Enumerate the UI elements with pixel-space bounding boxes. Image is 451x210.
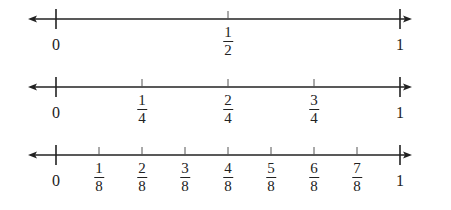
denominator: 4 bbox=[224, 110, 232, 126]
tick-label: 0 bbox=[52, 37, 60, 53]
numerator: 1 bbox=[223, 25, 233, 42]
denominator: 8 bbox=[224, 178, 232, 194]
denominator: 8 bbox=[267, 178, 275, 194]
numerator: 6 bbox=[309, 161, 319, 178]
tick-label: 18 bbox=[94, 161, 104, 194]
fraction: 58 bbox=[266, 161, 276, 194]
tick-label: 68 bbox=[309, 161, 319, 194]
tick-label: 12 bbox=[223, 25, 233, 58]
numerator: 4 bbox=[223, 161, 233, 178]
denominator: 2 bbox=[224, 42, 232, 58]
tick-label: 14 bbox=[137, 93, 147, 126]
numerator: 2 bbox=[137, 161, 147, 178]
denominator: 8 bbox=[353, 178, 361, 194]
tick-label: 0 bbox=[52, 173, 60, 189]
fraction: 78 bbox=[352, 161, 362, 194]
number-line-fourths bbox=[28, 77, 412, 97]
fraction: 18 bbox=[94, 161, 104, 194]
fraction: 34 bbox=[309, 93, 319, 126]
tick-label: 58 bbox=[266, 161, 276, 194]
denominator: 8 bbox=[95, 178, 103, 194]
denominator: 4 bbox=[138, 110, 146, 126]
numerator: 5 bbox=[266, 161, 276, 178]
fraction: 38 bbox=[180, 161, 190, 194]
tick-label: 1 bbox=[396, 37, 404, 53]
fraction: 24 bbox=[223, 93, 233, 126]
fraction: 12 bbox=[223, 25, 233, 58]
denominator: 8 bbox=[181, 178, 189, 194]
tick-label: 28 bbox=[137, 161, 147, 194]
tick-label: 78 bbox=[352, 161, 362, 194]
tick-label: 34 bbox=[309, 93, 319, 126]
numerator: 3 bbox=[309, 93, 319, 110]
fraction: 14 bbox=[137, 93, 147, 126]
tick-label: 1 bbox=[396, 173, 404, 189]
denominator: 4 bbox=[310, 110, 318, 126]
tick-label: 1 bbox=[396, 105, 404, 121]
numerator: 3 bbox=[180, 161, 190, 178]
numerator: 7 bbox=[352, 161, 362, 178]
denominator: 8 bbox=[138, 178, 146, 194]
tick-label: 38 bbox=[180, 161, 190, 194]
tick-label: 48 bbox=[223, 161, 233, 194]
denominator: 8 bbox=[310, 178, 318, 194]
fraction: 48 bbox=[223, 161, 233, 194]
numerator: 1 bbox=[137, 93, 147, 110]
tick-label: 24 bbox=[223, 93, 233, 126]
number-line-halves bbox=[28, 9, 412, 29]
tick-label: 0 bbox=[52, 105, 60, 121]
numerator: 2 bbox=[223, 93, 233, 110]
fraction: 68 bbox=[309, 161, 319, 194]
numerator: 1 bbox=[94, 161, 104, 178]
fraction: 28 bbox=[137, 161, 147, 194]
